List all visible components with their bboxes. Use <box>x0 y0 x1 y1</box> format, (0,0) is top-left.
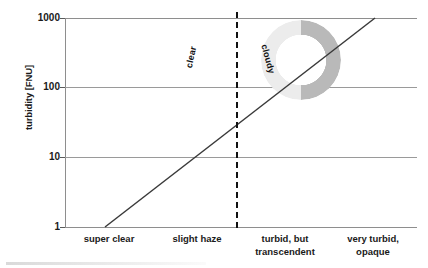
x-label-very-turbid-opaque: very turbid, opaque <box>329 233 417 267</box>
y-tick-label-10: 10 <box>2 152 60 162</box>
y-tick-label-1: 1 <box>2 222 60 232</box>
x-label-very-turbid-opaque-line1: very turbid, <box>347 233 399 244</box>
scan-edge-artifact <box>6 262 206 265</box>
x-label-very-turbid-opaque-line2: opaque <box>356 246 390 257</box>
y-axis-tick-group: 1000 100 10 1 <box>0 0 60 268</box>
y-tick-label-100: 100 <box>2 82 60 92</box>
turbidity-trend-line <box>65 18 417 227</box>
x-label-super-clear-text: super clear <box>84 233 135 244</box>
x-label-turbid-transcendent-line1: turbid, but <box>262 233 309 244</box>
x-label-turbid-transcendent: turbid, but transcendent <box>241 233 329 267</box>
clear-cloudy-divider-line <box>236 12 238 228</box>
x-label-turbid-transcendent-line2: transcendent <box>255 246 315 257</box>
gridline-1 <box>65 227 417 228</box>
y-tick-label-1000: 1000 <box>2 13 60 23</box>
plot-area <box>65 18 417 227</box>
x-label-slight-haze-text: slight haze <box>172 233 221 244</box>
turbidity-chart-figure: turbidity [FNU] 1000 100 10 1 clear clou… <box>0 0 428 268</box>
